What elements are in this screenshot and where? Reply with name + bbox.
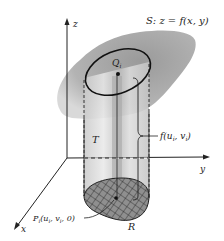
z-arrow-icon xyxy=(65,18,70,25)
y-arrow-icon xyxy=(203,155,210,160)
surface-over-region-diagram: S: z = f(x, y) z y x Qi T f(ui, vi) Pi(u… xyxy=(0,0,224,241)
x-axis-label: x xyxy=(21,224,26,234)
surface-label: S: z = f(x, y) xyxy=(146,15,209,26)
point-q xyxy=(116,72,120,76)
p-label: Pi(ui, vi, 0) xyxy=(32,214,75,224)
y-axis-label: y xyxy=(199,164,206,174)
region-r-label: R xyxy=(127,221,135,232)
height-label: f(ui, vi) xyxy=(159,131,191,142)
point-p xyxy=(114,196,118,200)
z-axis-label: z xyxy=(72,19,78,29)
